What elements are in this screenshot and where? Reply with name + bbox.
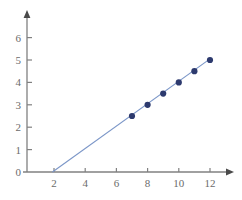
y-axis-tick-label: 4 xyxy=(16,77,22,88)
x-axis-tick-label: 2 xyxy=(51,178,57,189)
data-point-marker xyxy=(207,57,213,63)
data-point-marker xyxy=(176,79,182,85)
data-point-marker xyxy=(160,91,166,97)
x-axis-tick-label: 4 xyxy=(82,178,88,189)
data-point-marker xyxy=(145,102,151,108)
y-axis-tick-label: 5 xyxy=(16,55,22,66)
y-axis-tick-label: 0 xyxy=(16,167,22,178)
x-axis-tick-label: 8 xyxy=(145,178,151,189)
y-axis-tick-label: 1 xyxy=(16,144,22,155)
y-axis-tick-label: 2 xyxy=(16,122,22,133)
y-axis-tick-label: 3 xyxy=(16,99,22,110)
x-axis-tick-label: 10 xyxy=(173,178,184,189)
x-axis-arrow-icon xyxy=(226,169,234,176)
data-point-marker xyxy=(129,113,135,119)
data-point-marker xyxy=(191,68,197,74)
x-axis-tick-label: 12 xyxy=(205,178,216,189)
y-axis-tick-marks xyxy=(27,38,32,150)
scatter-plot-canvas xyxy=(0,0,242,200)
x-axis-tick-label: 6 xyxy=(114,178,120,189)
y-axis xyxy=(24,10,31,172)
y-axis-arrow-icon xyxy=(24,10,31,18)
x-axis xyxy=(23,169,234,176)
chart-container: 0123456 24681012 xyxy=(0,0,242,200)
y-axis-tick-label: 6 xyxy=(16,32,22,43)
